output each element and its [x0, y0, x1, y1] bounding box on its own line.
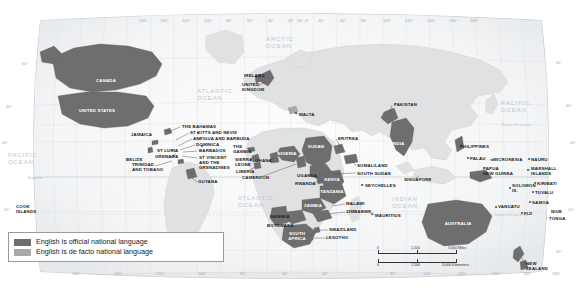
country-label: SOLOMON IS.	[512, 184, 536, 194]
legend-swatch-defacto	[14, 249, 31, 256]
longitude-tick-label-top: 80°	[361, 18, 367, 23]
scale-km-mid: 1,500	[411, 263, 420, 267]
country-label: MICRONESIA	[493, 158, 523, 163]
latitude-tick-label: 40°	[6, 104, 12, 109]
longitude-tick-label-bottom: 140°	[492, 271, 500, 276]
legend-item-official: English is official national language	[14, 238, 218, 246]
country-label: VANUATU	[498, 205, 520, 210]
longitude-tick-label-top: 100°	[383, 18, 391, 23]
longitude-tick-label-top: 140°	[160, 18, 168, 23]
longitude-tick-label-top: 60°	[247, 18, 253, 23]
longitude-tick-label-bottom: 180°	[552, 271, 560, 276]
country-label: CAMEROON	[242, 176, 269, 181]
longitude-tick-label-bottom: 40°	[322, 271, 328, 276]
country-label: MAURITIUS	[375, 214, 401, 219]
latitude-tick-label: 20°	[570, 140, 576, 145]
legend: English is official national language En…	[8, 232, 224, 262]
country-label: ERITREA	[338, 137, 358, 142]
longitude-tick-label-top: 120°	[405, 18, 413, 23]
country-label: BARBADOS	[199, 149, 226, 154]
ocean-label: ATLANTIC OCEAN	[238, 195, 274, 209]
country-label: UNITED STATES	[79, 109, 115, 114]
longitude-tick-label-top: 0°	[305, 18, 309, 23]
longitude-tick-label-top: 180°	[470, 18, 478, 23]
country-label: SAMOA	[532, 201, 549, 206]
geoline-label: Equator	[28, 175, 42, 180]
country-label: SOUTH SUDAN	[357, 172, 391, 177]
geoline-label: Tropic of Cancer	[501, 122, 531, 127]
country-label: UNITED KINGDOM	[242, 83, 264, 93]
country-label: UGANDA	[297, 174, 317, 179]
country-label: KIRIBATI	[537, 182, 557, 187]
country-label: ZIMBABWE	[346, 210, 371, 215]
ocean-label: ATLANTIC OCEAN	[197, 88, 233, 102]
country-label: MALTA	[299, 113, 314, 118]
longitude-tick-label-bottom: 140°	[114, 271, 122, 276]
country-label: SIERRA LEONE	[235, 158, 253, 168]
scale-miles-end: 3,000 Miles	[448, 246, 466, 250]
longitude-tick-label-top: 160°	[139, 18, 147, 23]
country-label: NAURU	[531, 158, 548, 163]
legend-item-defacto: English is de facto national language	[14, 248, 218, 256]
latitude-tick-label: 60°	[556, 60, 562, 65]
country-label: SINGAPORE	[404, 178, 432, 183]
ocean-label: INDIAN OCEAN	[392, 196, 418, 210]
legend-label-defacto: English is de facto national language	[36, 248, 153, 256]
longitude-tick-label-bottom: 80°	[240, 271, 246, 276]
scale-bar: 0 1,500 3,000 Miles 0 1,500 3,000 Kilome…	[378, 246, 470, 268]
longitude-tick-label-bottom: 60°	[282, 271, 288, 276]
country-label: NAMIBIA	[270, 215, 290, 220]
latitude-tick-label: 60°	[22, 61, 28, 66]
ocean-label: PACIFIC OCEAN	[8, 152, 38, 166]
country-label: AUSTRALIA	[445, 222, 472, 227]
country-label: INDIA	[392, 142, 405, 147]
latitude-tick-label: 20°	[568, 207, 574, 212]
country-label: SEYCHELLES	[365, 184, 396, 189]
country-label: IRELAND	[244, 74, 265, 79]
country-label: SUDAN	[308, 145, 324, 150]
scale-tick	[456, 250, 457, 254]
country-label: ZAMBIA	[304, 204, 322, 209]
country-label: NIGERIA	[277, 152, 296, 157]
longitude-tick-label-top: 20°	[288, 18, 294, 23]
ocean-label: ARCTIC OCEAN	[266, 36, 294, 50]
country-label: KENYA	[324, 178, 340, 183]
country-label: PALAU	[470, 157, 486, 162]
country-label: RWANDA	[295, 182, 316, 187]
country-label: ST VINCENT AND THE GRENADINES	[199, 156, 230, 171]
longitude-tick-label-bottom: 120°	[156, 271, 164, 276]
longitude-tick-label-bottom: 120°	[458, 271, 466, 276]
country-label: TUVALU	[535, 191, 553, 196]
scale-miles-zero: 0	[377, 246, 379, 250]
country-label: TANZANIA	[320, 190, 343, 195]
longitude-tick-label-top: 40°	[318, 18, 324, 23]
country-label: LESOTHO	[326, 236, 348, 241]
country-label: JAMAICA	[131, 133, 152, 138]
longitude-tick-label-bottom: 100°	[198, 271, 206, 276]
latitude-tick-label: 40°	[556, 249, 562, 254]
country-label: PAPUA NEW GUINEA	[483, 167, 513, 177]
longitude-tick-label-top: 160°	[449, 18, 457, 23]
latitude-tick-label: 20°	[4, 207, 10, 212]
world-map: ARCTIC OCEANATLANTIC OCEANATLANTIC OCEAN…	[0, 0, 582, 293]
country-label: GRENADA	[155, 155, 178, 160]
scale-tick	[378, 250, 379, 254]
country-label: GHANA	[255, 159, 272, 164]
country-label: TONGA	[549, 217, 566, 222]
country-label: MARSHALL ISLANDS	[531, 167, 557, 177]
country-label: NEW ZEALAND	[526, 262, 548, 272]
country-label: GUYANA	[198, 180, 218, 185]
longitude-tick-label-bottom: 160°	[72, 271, 80, 276]
country-label: FIJI	[524, 212, 532, 217]
legend-swatch-official	[14, 239, 31, 246]
country-label: SWAZILAND	[329, 228, 356, 233]
longitude-tick-label-top: 60°	[340, 18, 346, 23]
country-label: PHILIPPINES	[460, 145, 489, 150]
longitude-tick-label-top: 140°	[427, 18, 435, 23]
country-label: SOMALILAND	[357, 164, 388, 169]
longitude-tick-label-bottom: 80°	[390, 271, 396, 276]
country-label: NIUE	[551, 210, 562, 215]
longitude-tick-label-top: 80°	[226, 18, 232, 23]
longitude-tick-label-top: 40°	[268, 18, 274, 23]
country-label: THE GAMBIA	[233, 145, 252, 155]
